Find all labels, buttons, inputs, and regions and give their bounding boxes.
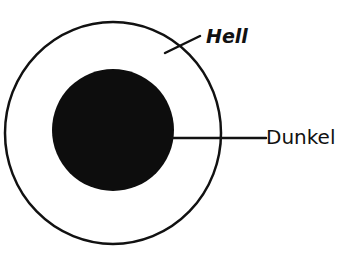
- label-hell: Hell: [206, 27, 248, 46]
- label-dunkel: Dunkel: [266, 127, 335, 147]
- inner-circle-dark: [52, 69, 174, 191]
